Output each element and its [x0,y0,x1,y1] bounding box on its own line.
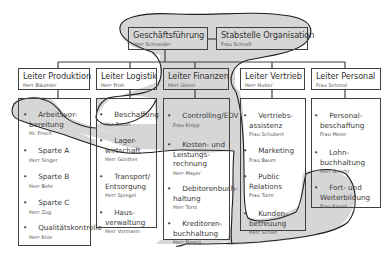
box-leiter-finanzen: Leiter Finanzen Herr Glonn [163,68,229,90]
unit-label: Vertriebs- assistenz [249,111,293,129]
unit-label: Kreditoren- buchhaltung [173,219,222,237]
dept-title: Leiter Personal [316,71,375,81]
dept-person: Frau Schmid [316,82,347,88]
org-chart: Geschäftsführung Herr Schneider Stabstel… [0,0,384,256]
unit-item: •Haus- verwaltungHerr Vormann [105,199,145,254]
bullet-icon: • [314,183,318,192]
unit-label: Haus- verwaltung [105,208,145,226]
unit-label: Sparte A [38,146,69,155]
dept-person: Herr Glonn [168,82,195,88]
bullet-icon: • [99,110,103,119]
unit-label: Beschaffung [114,110,159,119]
unit-label: Qualitätskontrolle [38,223,102,232]
bullet-icon: • [99,208,103,217]
box-leiter-logistik: Leiter Logistik Herr Froh [96,68,157,90]
unit-item: •Kunden- betreuungHerr Schler [249,200,288,255]
bullet-icon: • [23,146,27,155]
staff-person: Frau Schnell [221,41,252,47]
unit-label: Public Relations [249,172,282,190]
dept-person: Herr Bäumler [23,82,57,88]
bullet-icon: • [314,148,318,157]
box-staff-organisation: Stabstelle Organisation Frau Schnell [216,27,308,50]
unit-item: •QualitätskontrolleHerr Knie [29,214,102,256]
unit-item: •Kreditoren- buchhaltungHerr Newig [173,210,222,256]
box-leiter-vertrieb: Leiter Vertrieb Herr Huber [240,68,305,90]
bullet-icon: • [167,184,171,193]
unit-person: Herr Newig [173,238,222,246]
bullet-icon: • [243,111,247,120]
dept-title: Leiter Finanzen [168,71,229,81]
unit-label: Marketing [258,146,294,155]
unit-label: Debitorenbuch- haltung [173,184,238,202]
unit-label: Kunden- betreuung [249,209,288,227]
unit-label: Fort- und Weiterbildung [320,183,370,201]
unit-person: Frau Turm [249,191,282,199]
dept-title: Leiter Logistik [101,71,157,81]
dept-person: Herr Froh [101,82,124,88]
dept-title: Leiter Vertrieb [245,71,302,81]
bullet-icon: • [23,110,27,119]
unit-label: Arbeitsvor- bereitung [29,110,77,128]
bullet-icon: • [23,223,27,232]
staff-title: Stabstelle Organisation [221,30,314,40]
management-person: Herr Schneider [133,41,170,47]
unit-item: •Fort- und WeiterbildungFrau Kiesel [320,174,370,229]
bullet-icon: • [167,219,171,228]
unit-label: Lohn- buchhaltung [320,148,365,166]
unit-label: Transport/ Entsorgung [105,172,150,190]
box-leiter-personal: Leiter Personal Frau Schmid [311,68,381,90]
bullet-icon: • [99,172,103,181]
unit-label: Lager- wirtschaft [105,136,141,154]
bullet-icon: • [243,172,247,181]
unit-label: Sparte B [38,172,69,181]
unit-label: Kosten- und Leistungs- rechnung [173,140,225,168]
dept-title: Leiter Produktion [23,71,91,81]
dept-person: Herr Huber [245,82,273,88]
bullet-icon: • [314,111,318,120]
box-leiter-produktion: Leiter Produktion Herr Bäumler [18,68,90,90]
bullet-icon: • [23,172,27,181]
unit-label: Sparte C [38,198,69,207]
unit-person: Herr Vormann [105,227,145,235]
unit-person: Herr Knie [29,233,102,241]
unit-person: Frau Meier [320,130,364,138]
unit-person: Frau Kiesel [320,202,370,210]
management-title: Geschäftsführung [133,30,204,40]
unit-person: Frau Knipp [173,121,239,129]
box-management: Geschäftsführung Herr Schneider [128,27,208,50]
unit-person: Herr Schler [249,228,288,236]
bullet-icon: • [167,111,171,120]
bullet-icon: • [167,140,171,149]
bullet-icon: • [243,209,247,218]
bullet-icon: • [99,136,103,145]
unit-label: Personal- beschaffung [320,111,364,129]
bullet-icon: • [23,198,27,207]
bullet-icon: • [243,146,247,155]
unit-label: Controlling/EDV [182,111,238,120]
